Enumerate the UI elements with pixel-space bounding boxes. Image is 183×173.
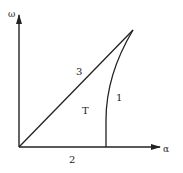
y-axis-label: ω	[8, 9, 15, 19]
curve-3-diagonal	[19, 30, 133, 147]
curve-1-label: 1	[116, 92, 122, 103]
curve-3-label: 3	[76, 66, 82, 77]
diagram-canvas: ω α 3 1 T 2	[0, 0, 183, 173]
x-axis-label: α	[163, 144, 169, 154]
region-t-label: T	[82, 105, 89, 116]
curve-1	[106, 30, 133, 147]
curve-2-label: 2	[69, 154, 75, 165]
